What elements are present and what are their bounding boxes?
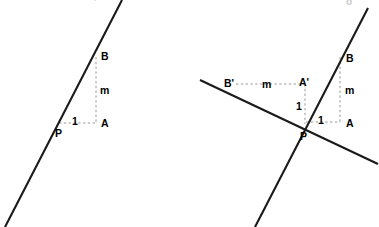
- length-label-m-right: m: [345, 85, 354, 96]
- point-label-B-prime: B': [224, 78, 234, 89]
- length-label-1-right: 1: [318, 115, 324, 126]
- point-label-A: A: [101, 118, 109, 129]
- point-label-B: B: [101, 51, 109, 62]
- cropped-glyph-top-left: ': [94, 0, 96, 8]
- length-label-m: m: [100, 85, 109, 96]
- length-label-1: 1: [72, 116, 78, 127]
- cropped-glyph-top-right: o: [346, 0, 352, 7]
- point-label-P-right: P: [300, 131, 307, 142]
- length-label-1-prime: 1: [296, 101, 302, 112]
- point-label-P: P: [55, 128, 62, 139]
- length-label-m-prime: m: [262, 79, 271, 90]
- geometry-figure: Bm1AP'Bm1APB'mA'1o: [0, 0, 379, 227]
- point-label-A-prime: A': [299, 77, 309, 88]
- line-through-P: [5, 0, 122, 227]
- single-line-slope-diagram: [5, 0, 122, 227]
- point-label-A-right: A: [346, 118, 354, 129]
- point-label-B-right: B: [346, 53, 354, 64]
